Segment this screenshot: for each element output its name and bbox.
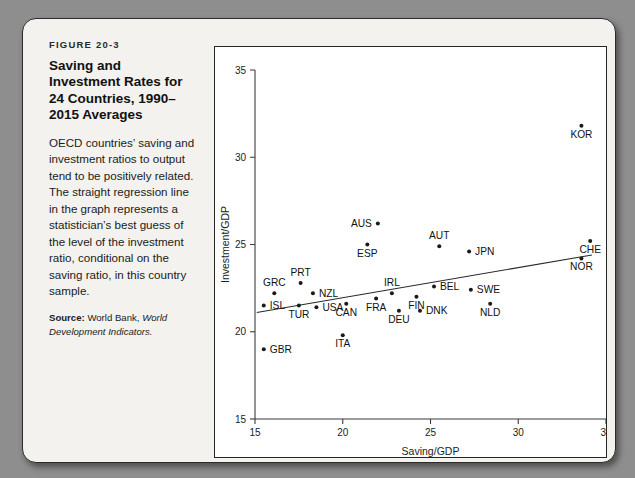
- data-point-label: GBR: [270, 344, 292, 355]
- data-point-label: ISL: [270, 300, 286, 311]
- data-point-label: FIN: [408, 300, 424, 311]
- x-tick-label: 35: [600, 427, 606, 438]
- plot-axes: 15202530351520253035: [235, 65, 606, 438]
- data-point-dot: [432, 284, 436, 288]
- data-point-label: ITA: [335, 338, 350, 349]
- figure-description: OECD countries’ saving and investment ra…: [49, 135, 195, 300]
- data-point-label: TUR: [288, 309, 309, 320]
- data-point-dot: [299, 281, 303, 285]
- y-tick-label: 15: [235, 414, 247, 425]
- data-point-dot: [488, 302, 492, 306]
- data-point-dot: [376, 222, 380, 226]
- data-point-label: NOR: [570, 261, 593, 272]
- y-axis-title: Investment/GDP: [219, 206, 231, 283]
- data-point-label: CHE: [579, 244, 601, 255]
- x-tick-label: 15: [249, 427, 261, 438]
- data-point-label: BEL: [440, 281, 460, 292]
- data-point-label: ESP: [357, 248, 378, 259]
- data-point-dot: [344, 302, 348, 306]
- x-tick-label: 20: [337, 427, 349, 438]
- data-point-label: JPN: [475, 246, 494, 257]
- data-point-dot: [579, 124, 583, 128]
- data-point-dot: [437, 244, 441, 248]
- data-point-dot: [418, 309, 422, 313]
- data-point-dot: [297, 304, 301, 308]
- data-point-label: DNK: [426, 305, 448, 316]
- data-point-label: CAN: [336, 307, 358, 318]
- page-background: FIGURE 20-3 Saving and Investment Rates …: [0, 0, 635, 478]
- data-points-group: ISLGRCGBRTURPRTUSANZLCANITAESPAUSFRAIRLD…: [262, 124, 601, 355]
- data-point-label: NZL: [319, 288, 339, 299]
- data-point-dot: [467, 249, 471, 253]
- data-point-dot: [414, 295, 418, 299]
- data-point-dot: [365, 243, 369, 247]
- scatter-plot-panel: 15202530351520253035 ISLGRCGBRTURPRTUSAN…: [214, 46, 607, 458]
- scatter-plot-svg: 15202530351520253035 ISLGRCGBRTURPRTUSAN…: [215, 47, 606, 457]
- y-tick-label: 20: [235, 326, 247, 337]
- data-point-dot: [579, 256, 583, 260]
- source-publisher: World Bank,: [87, 312, 139, 323]
- data-point-label: DEU: [388, 314, 410, 325]
- figure-caption-column: FIGURE 20-3 Saving and Investment Rates …: [49, 39, 195, 338]
- data-point-label: KOR: [570, 129, 592, 140]
- data-point-label: FRA: [366, 302, 387, 313]
- data-point-label: SWE: [477, 284, 500, 295]
- figure-title: Saving and Investment Rates for 24 Count…: [49, 58, 195, 124]
- data-point-dot: [314, 305, 318, 309]
- data-point-label: IRL: [384, 277, 400, 288]
- data-point-dot: [390, 291, 394, 295]
- x-axis-title: Saving/GDP: [402, 445, 460, 457]
- x-tick-label: 30: [513, 427, 525, 438]
- data-point-label: GRC: [263, 277, 286, 288]
- data-point-label: NLD: [480, 307, 500, 318]
- y-tick-label: 30: [235, 152, 247, 163]
- y-tick-label: 35: [235, 65, 247, 76]
- data-point-label: AUS: [351, 218, 372, 229]
- figure-number-label: FIGURE 20-3: [49, 39, 195, 50]
- figure-card: FIGURE 20-3 Saving and Investment Rates …: [22, 18, 616, 463]
- data-point-dot: [262, 304, 266, 308]
- data-point-dot: [341, 333, 345, 337]
- data-point-dot: [311, 291, 315, 295]
- data-point-label: PRT: [291, 267, 311, 278]
- data-point-dot: [374, 297, 378, 301]
- data-point-dot: [588, 239, 592, 243]
- source-label: Source:: [49, 312, 85, 323]
- data-point-dot: [469, 288, 473, 292]
- figure-source: Source: World Bank, World Development In…: [49, 311, 195, 337]
- data-point-label: AUT: [429, 230, 449, 241]
- data-point-dot: [272, 291, 276, 295]
- data-point-dot: [262, 347, 266, 351]
- y-tick-label: 25: [235, 239, 247, 250]
- x-tick-label: 25: [425, 427, 437, 438]
- data-point-dot: [397, 309, 401, 313]
